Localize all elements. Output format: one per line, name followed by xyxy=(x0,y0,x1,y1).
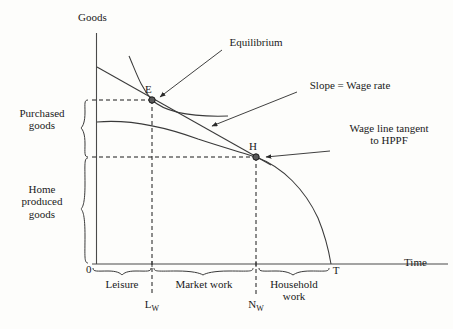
bracket-label-market-work-line-1: Market work xyxy=(175,278,232,290)
tick-label-nw-base: N xyxy=(248,298,256,310)
tick-label-nw-sub: W xyxy=(256,304,264,313)
bracket-label-home-produced-goods: Home produced goods xyxy=(22,183,63,220)
tick-label-lw-sub: W xyxy=(152,304,160,313)
annotation-slope-wage-rate-line-1: Slope = Wage rate xyxy=(310,79,391,91)
tick-label-nw: NW xyxy=(248,298,264,314)
leader-line-slope-wage-rate xyxy=(212,92,297,126)
bracket-label-household-work: Household work xyxy=(270,278,318,303)
bracket-label-household-work-line-1: Household xyxy=(270,278,318,290)
brace-leisure xyxy=(93,268,151,275)
point-label-e: E xyxy=(145,83,152,95)
hppf-curve xyxy=(97,121,331,264)
annotation-wage-line-tangent-line-1: Wage line tangent xyxy=(349,122,428,134)
tick-label-lw: LW xyxy=(145,298,159,314)
annotation-wage-line-tangent-line-2: to HPPF xyxy=(349,134,428,146)
y-axis-label: Goods xyxy=(78,11,107,23)
annotation-equilibrium: Equilibrium xyxy=(229,36,282,48)
bracket-label-home-produced-goods-line-2: produced xyxy=(22,195,63,207)
wage-line xyxy=(97,67,271,165)
bracket-label-home-produced-goods-line-1: Home xyxy=(22,183,63,195)
bracket-label-leisure-line-1: Leisure xyxy=(106,278,139,290)
origin-label: 0 xyxy=(86,263,92,275)
annotation-equilibrium-line-1: Equilibrium xyxy=(229,36,282,48)
x-axis-label: Time xyxy=(404,256,427,268)
annotation-slope-wage-rate: Slope = Wage rate xyxy=(310,79,391,91)
point-marker-e xyxy=(149,97,155,103)
annotation-wage-line-tangent: Wage line tangent to HPPF xyxy=(349,122,428,147)
diagram-canvas: Goods Time 0 E H Equilibrium Slope = Wag… xyxy=(0,0,453,329)
bracket-label-purchased-goods: Purchased goods xyxy=(19,107,64,132)
indifference-curve xyxy=(129,56,228,116)
point-marker-h xyxy=(253,154,259,160)
bracket-label-purchased-goods-line-2: goods xyxy=(19,119,64,131)
bracket-label-home-produced-goods-line-3: goods xyxy=(22,208,63,220)
point-label-h: H xyxy=(249,140,257,152)
brace-home-produced-goods xyxy=(81,158,88,263)
bracket-label-purchased-goods-line-1: Purchased xyxy=(19,107,64,119)
brace-household-work xyxy=(259,268,329,275)
bracket-label-market-work: Market work xyxy=(175,278,232,290)
brace-purchased-goods xyxy=(81,100,88,157)
bracket-label-leisure: Leisure xyxy=(106,278,139,290)
tick-label-t: T xyxy=(333,264,340,276)
bracket-label-household-work-line-2: work xyxy=(270,290,318,302)
leader-line-equilibrium xyxy=(160,50,222,97)
tick-label-lw-base: L xyxy=(145,298,152,310)
leader-line-wage-line-tangent xyxy=(266,151,330,157)
brace-market-work xyxy=(154,268,253,275)
